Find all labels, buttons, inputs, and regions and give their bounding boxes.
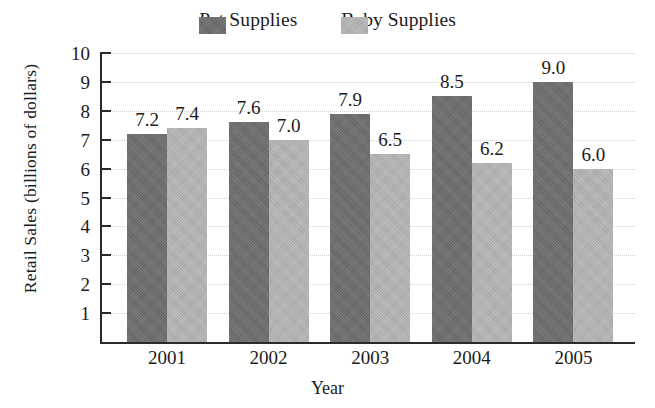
- x-axis-tick-label: 2002: [229, 348, 309, 367]
- y-axis-tick-label: 5: [0, 189, 90, 208]
- chart-legend: Pet Supplies Baby Supplies: [0, 6, 655, 34]
- bar-pet-supplies-2003[interactable]: [330, 114, 370, 342]
- plot-area: 7.27.47.67.07.96.58.56.29.06.0: [100, 53, 635, 342]
- bar-value-label: 7.2: [135, 110, 159, 129]
- bar-value-label: 9.0: [542, 58, 566, 77]
- y-axis-tick-label: 1: [0, 304, 90, 323]
- bar-value-label: 7.0: [277, 116, 301, 135]
- bar-group: 9.06.0: [533, 53, 613, 342]
- legend-swatch-baby-supplies: [341, 17, 368, 34]
- bar-group: 7.67.0: [229, 53, 309, 342]
- y-axis-tick-label: 6: [0, 160, 90, 179]
- bar-value-label: 6.2: [480, 139, 504, 158]
- bar-group: 7.96.5: [330, 53, 410, 342]
- bar-value-label: 6.0: [582, 145, 606, 164]
- y-axis-tick-label: 8: [0, 102, 90, 121]
- bar-value-label: 7.4: [175, 104, 199, 123]
- y-axis-tick-label: 2: [0, 275, 90, 294]
- bar-value-label: 8.5: [440, 72, 464, 91]
- bar-baby-supplies-2005[interactable]: [573, 169, 613, 342]
- bar-baby-supplies-2003[interactable]: [370, 154, 410, 342]
- bar-pet-supplies-2005[interactable]: [533, 82, 573, 342]
- y-axis-tick-label: 3: [0, 246, 90, 265]
- bar-baby-supplies-2002[interactable]: [269, 140, 309, 342]
- bar-baby-supplies-2004[interactable]: [472, 163, 512, 342]
- x-axis-tick-label: 2003: [330, 348, 410, 367]
- legend-item-pet-supplies: Pet Supplies: [199, 10, 297, 30]
- x-axis-tick-label: 2005: [533, 348, 613, 367]
- y-axis-tick-label: 7: [0, 131, 90, 150]
- bar-group: 8.56.2: [432, 53, 512, 342]
- bar-value-label: 6.5: [378, 130, 402, 149]
- bar-baby-supplies-2001[interactable]: [167, 128, 207, 342]
- x-axis-title: Year: [0, 378, 655, 399]
- legend-swatch-pet-supplies: [199, 17, 226, 34]
- legend-item-baby-supplies: Baby Supplies: [341, 10, 456, 30]
- y-axis-tick-label: 10: [0, 44, 90, 63]
- bar-pet-supplies-2001[interactable]: [127, 134, 167, 342]
- bar-value-label: 7.6: [237, 98, 261, 117]
- bar-chart: Pet Supplies Baby Supplies Retail Sales …: [0, 0, 655, 408]
- y-axis-tick-label: 4: [0, 217, 90, 236]
- x-axis-tick-label: 2004: [432, 348, 512, 367]
- bars-layer: 7.27.47.67.07.96.58.56.29.06.0: [100, 53, 635, 342]
- bar-value-label: 7.9: [338, 90, 362, 109]
- x-axis-line: [100, 342, 635, 344]
- bar-group: 7.27.4: [127, 53, 207, 342]
- bar-pet-supplies-2004[interactable]: [432, 96, 472, 342]
- y-axis-tick-label: 9: [0, 73, 90, 92]
- x-axis-tick-label: 2001: [127, 348, 207, 367]
- bar-pet-supplies-2002[interactable]: [229, 122, 269, 342]
